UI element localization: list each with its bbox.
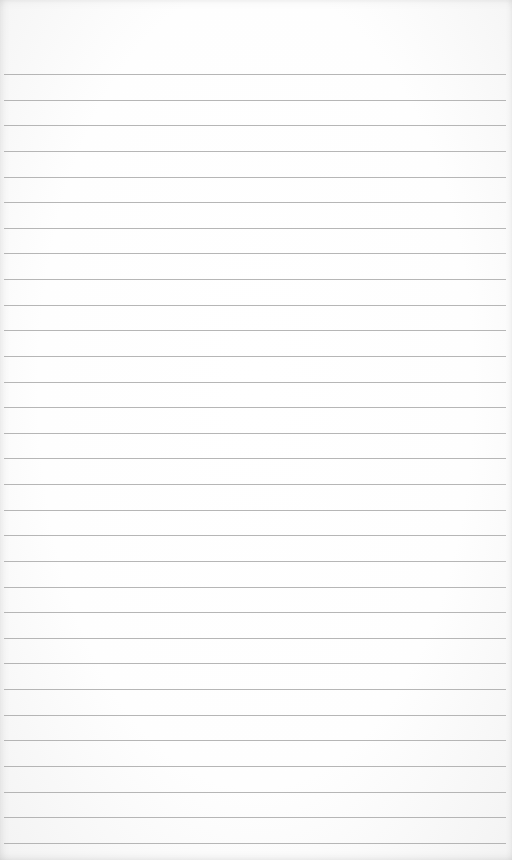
- ruled-line: [4, 228, 506, 229]
- ruled-line: [4, 279, 506, 280]
- ruled-line: [4, 843, 506, 844]
- ruled-line: [4, 253, 506, 254]
- lined-paper: [0, 0, 512, 860]
- ruled-line: [4, 612, 506, 613]
- ruled-line: [4, 433, 506, 434]
- ruled-line: [4, 535, 506, 536]
- ruled-line: [4, 689, 506, 690]
- ruled-line: [4, 638, 506, 639]
- ruled-line: [4, 510, 506, 511]
- ruled-line: [4, 484, 506, 485]
- ruled-line: [4, 177, 506, 178]
- ruled-line: [4, 740, 506, 741]
- ruled-line: [4, 458, 506, 459]
- ruled-line: [4, 407, 506, 408]
- ruled-line: [4, 382, 506, 383]
- ruled-line: [4, 125, 506, 126]
- ruled-line: [4, 817, 506, 818]
- ruled-line: [4, 663, 506, 664]
- ruled-line: [4, 766, 506, 767]
- ruled-line: [4, 305, 506, 306]
- ruled-line: [4, 74, 506, 75]
- ruled-line: [4, 715, 506, 716]
- ruled-line: [4, 202, 506, 203]
- ruled-line: [4, 100, 506, 101]
- ruled-line: [4, 356, 506, 357]
- ruled-line: [4, 587, 506, 588]
- ruled-line: [4, 330, 506, 331]
- ruled-line: [4, 561, 506, 562]
- ruled-line: [4, 792, 506, 793]
- ruled-line: [4, 151, 506, 152]
